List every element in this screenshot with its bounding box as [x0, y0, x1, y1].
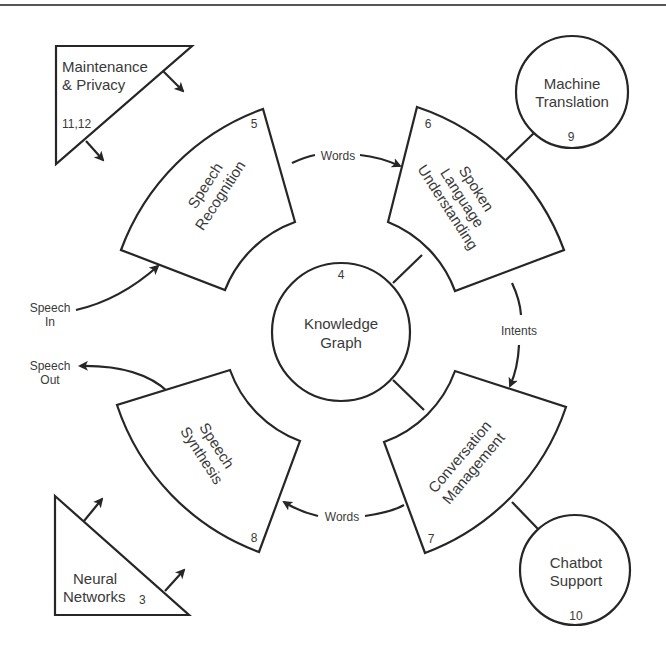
words-bottom-arc-right — [365, 505, 404, 516]
machine-translation-number: 9 — [568, 130, 575, 144]
speech-synthesis-number: 8 — [251, 531, 258, 545]
chatbot-support-label-1: Chatbot — [550, 554, 603, 571]
intents-arc-top — [512, 283, 521, 315]
neural-networks-number: 3 — [139, 593, 146, 607]
words-bottom-label: Words — [325, 510, 359, 524]
intents-label: Intents — [501, 324, 537, 338]
speech-in-arrow — [76, 266, 158, 310]
chatbot-support-label-2: Support — [550, 572, 603, 589]
neural-arrow-2 — [165, 570, 184, 591]
words-top-arc-right — [360, 155, 400, 166]
connector-cm-chatbot — [512, 502, 538, 529]
maintenance-label-2: & Privacy — [62, 76, 126, 93]
speech-in-label-2: In — [45, 315, 55, 329]
connector-kg-cm — [393, 380, 424, 410]
connector-kg-slu — [393, 255, 422, 283]
neural-networks-label-2: Networks — [63, 588, 126, 605]
knowledge-graph-label-2: Graph — [320, 334, 362, 351]
speech-out-label-1: Speech — [30, 359, 71, 373]
speech-in-label-1: Speech — [30, 301, 71, 315]
slu-number: 6 — [425, 117, 432, 131]
speech-out-arrow — [80, 366, 168, 392]
chatbot-support-number: 10 — [569, 609, 583, 623]
speech-recognition-number: 5 — [251, 117, 258, 131]
intents-arc-bottom — [510, 345, 519, 386]
words-top-arc-left — [292, 155, 315, 163]
knowledge-graph-node[interactable] — [272, 263, 410, 401]
neural-networks-label-1: Neural — [73, 570, 117, 587]
maintenance-number: 11,12 — [62, 117, 91, 131]
machine-translation-label-2: Translation — [535, 93, 609, 110]
neural-arrow-1 — [84, 499, 102, 521]
machine-translation-label-1: Machine — [544, 75, 601, 92]
diagram-canvas: Speech Recognition 5 Spoken Language Und… — [0, 0, 666, 654]
maintenance-arrow-1 — [163, 71, 183, 91]
maintenance-arrow-2 — [86, 141, 103, 160]
speech-out-label-2: Out — [40, 373, 60, 387]
words-bottom-arc-left — [284, 502, 318, 516]
conversation-management-number: 7 — [428, 532, 435, 546]
knowledge-graph-label-1: Knowledge — [304, 315, 378, 332]
connector-slu-mt — [506, 133, 534, 160]
knowledge-graph-number: 4 — [338, 268, 345, 282]
maintenance-label-1: Maintenance — [62, 58, 148, 75]
words-top-label: Words — [321, 149, 355, 163]
